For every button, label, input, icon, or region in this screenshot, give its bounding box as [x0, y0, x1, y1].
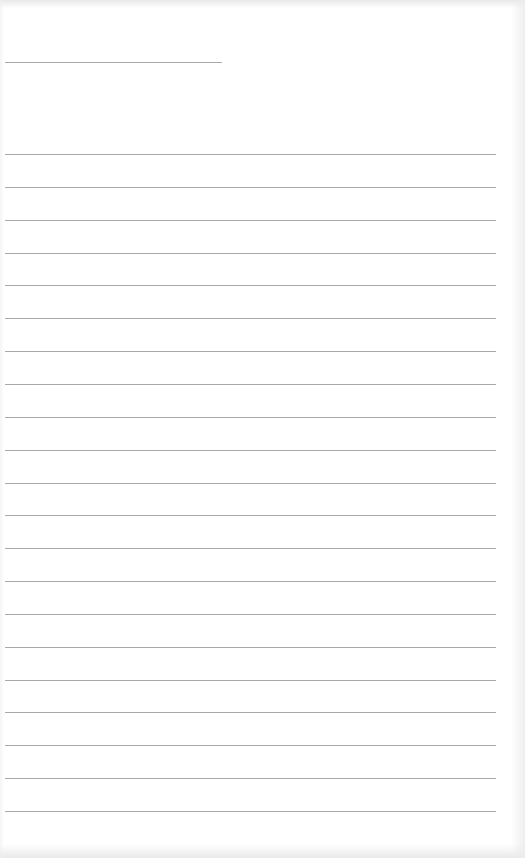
ruled-line [5, 351, 496, 352]
scan-edge-top [0, 0, 525, 8]
scan-edge-left [0, 0, 4, 858]
header-name-line [5, 62, 222, 63]
ruled-line [5, 680, 496, 681]
ruled-line [5, 581, 496, 582]
ruled-line [5, 285, 496, 286]
ruled-line [5, 253, 496, 254]
lined-paper-page [0, 0, 525, 858]
ruled-line [5, 614, 496, 615]
ruled-line [5, 187, 496, 188]
ruled-line [5, 483, 496, 484]
ruled-line [5, 515, 496, 516]
ruled-line [5, 318, 496, 319]
ruled-line [5, 647, 496, 648]
ruled-line [5, 778, 496, 779]
ruled-line [5, 712, 496, 713]
ruled-line [5, 811, 496, 812]
scan-edge-right [511, 0, 525, 858]
scan-edge-bottom [0, 844, 525, 858]
ruled-line [5, 745, 496, 746]
ruled-line [5, 154, 496, 155]
ruled-line [5, 384, 496, 385]
ruled-line [5, 450, 496, 451]
ruled-line [5, 417, 496, 418]
ruled-line [5, 220, 496, 221]
ruled-line [5, 548, 496, 549]
